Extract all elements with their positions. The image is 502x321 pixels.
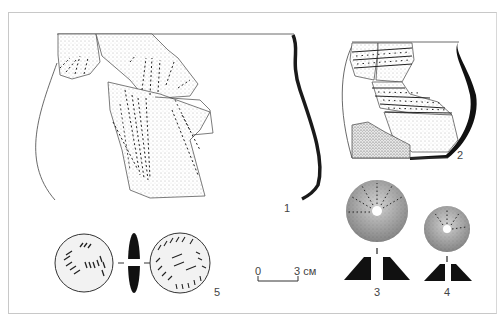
vessel-2 [342,42,476,160]
label-4: 4 [444,286,450,298]
spindle-whorl-3 [344,180,410,280]
figure-drawing [0,0,502,321]
scale-end: 3 см [294,265,316,277]
vessel-1 [36,34,320,200]
spindle-whorl-5 [55,233,210,293]
scale-bar [258,276,298,281]
scale-start: 0 [255,265,261,277]
label-3: 3 [374,286,380,298]
label-5: 5 [214,286,220,298]
spindle-whorl-4 [424,206,472,281]
label-2: 2 [457,149,463,161]
label-1: 1 [284,202,290,214]
